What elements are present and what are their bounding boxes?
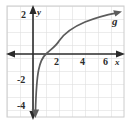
x-axis-tick-label-6: 6: [103, 57, 108, 67]
y-axis-tick-label-minus-4: -4: [17, 101, 25, 111]
x-axis-label: x: [115, 58, 120, 67]
curve-label-g: g: [112, 16, 118, 27]
x-axis-tick-label-4: 4: [80, 57, 85, 67]
x-axis-tick-label-2: 2: [54, 57, 59, 67]
y-axis-tick-label-minus-2: -2: [17, 75, 25, 85]
graph-figure: 2 -2 -4 2 4 6 x y g: [0, 0, 129, 125]
y-axis-tick-label-2: 2: [21, 10, 26, 20]
y-axis-label: y: [37, 8, 41, 17]
